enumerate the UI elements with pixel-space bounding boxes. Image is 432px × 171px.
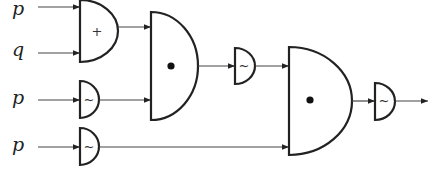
not-symbol-1: ~ (84, 92, 95, 107)
or-gate: + (80, 0, 118, 62)
input-label-p-1: p (12, 0, 24, 19)
logic-circuit-diagram: p q p p + ~ ~ ~ (0, 0, 432, 171)
input-label-p-2: p (12, 86, 24, 108)
or-symbol: + (92, 24, 103, 39)
not-gate-2: ~ (80, 128, 99, 165)
input-label-q: q (12, 38, 24, 60)
and-dot-2 (306, 96, 313, 103)
and-gate-1 (151, 12, 198, 120)
not-gate-3: ~ (235, 48, 255, 84)
input-label-p-3: p (12, 133, 24, 155)
and-dot-1 (167, 62, 174, 69)
not-symbol-4: ~ (379, 93, 390, 108)
not-gate-4: ~ (375, 83, 395, 120)
not-symbol-2: ~ (84, 139, 95, 154)
and-gate-2 (289, 47, 352, 155)
not-symbol-3: ~ (239, 58, 250, 73)
not-gate-1: ~ (80, 81, 99, 118)
